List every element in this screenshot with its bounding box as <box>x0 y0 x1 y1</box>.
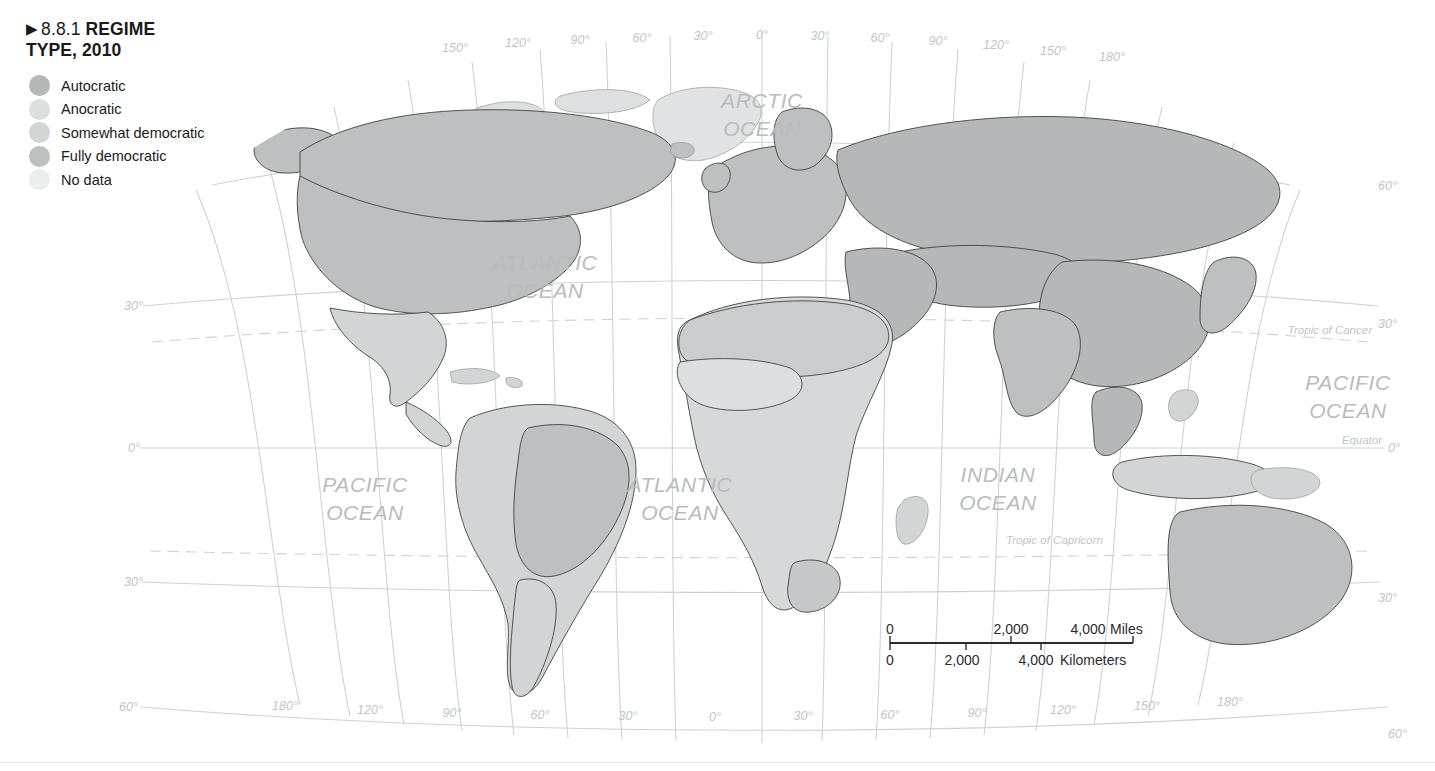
lon-label-bottom-1: 120° <box>357 703 383 717</box>
country-russia <box>837 116 1280 263</box>
legend-swatch-somewhat-democratic <box>29 122 50 143</box>
island-new-guinea <box>1251 468 1320 499</box>
legend-swatch-no-data <box>29 169 50 190</box>
legend-item-fully-democratic: Fully democratic <box>29 145 286 169</box>
figure-number: 8.8.1 <box>41 19 80 39</box>
country-iceland <box>670 142 694 158</box>
lat-label-right-0: 60° <box>1378 179 1397 193</box>
lon-label-bottom-8: 90° <box>968 706 987 720</box>
legend-swatch-fully-democratic <box>29 146 50 167</box>
lon-label-bottom-3: 60° <box>531 708 550 722</box>
lat-label-right-3: 30° <box>1378 591 1397 605</box>
island-madagascar <box>896 496 928 544</box>
country-indonesia <box>1113 455 1272 498</box>
region-central-america <box>406 402 451 446</box>
ocean-label-atlantic-north-line1: ATLANTIC <box>491 251 598 274</box>
lon-label-bottom-11: 180° <box>1217 695 1243 709</box>
lat-label-right-1: 30° <box>1378 317 1397 331</box>
country-south-africa <box>788 560 840 612</box>
label-tropic-of-capricorn: Tropic of Capricorn <box>1006 534 1103 546</box>
ocean-label-pacific-west-line2: OCEAN <box>326 501 404 524</box>
ocean-label-arctic-line2: OCEAN <box>723 117 801 140</box>
ocean-label-pacific-east-line1: PACIFIC <box>1305 371 1391 394</box>
lon-label-top-7: 60° <box>871 31 890 45</box>
scale-km-unit: Kilometers <box>1060 652 1126 668</box>
figure-page: ARCTIC OCEAN ATLANTIC OCEAN ATLANTIC OCE… <box>0 0 1435 771</box>
ocean-label-indian-line2: OCEAN <box>959 491 1037 514</box>
scale-km-tick-1: 2,000 <box>944 652 979 668</box>
ocean-label-arctic-line1: ARCTIC <box>719 89 803 112</box>
label-equator: Equator <box>1342 434 1383 446</box>
label-tropic-of-cancer: Tropic of Cancer <box>1288 324 1373 336</box>
region-southeast-asia <box>1092 387 1142 455</box>
lon-label-bottom-2: 90° <box>443 706 462 720</box>
lon-label-top-2: 90° <box>571 33 590 47</box>
ocean-label-atlantic-south-line2: OCEAN <box>641 501 719 524</box>
lon-label-top-1: 120° <box>505 36 531 50</box>
lat-label-left-2: 30° <box>124 575 143 589</box>
country-argentina <box>510 579 556 697</box>
page-bottom-rule <box>0 762 1435 763</box>
figure-title-line2: TYPE, 2010 <box>26 40 121 60</box>
scale-miles-tick-2: 4,000 <box>1070 621 1105 637</box>
legend-item-anocratic: Anocratic <box>29 98 286 122</box>
lon-label-top-9: 120° <box>983 38 1009 52</box>
lon-label-bottom-5: 0° <box>709 710 721 724</box>
scale-miles-unit: Miles <box>1110 621 1143 637</box>
lon-label-top-11: 180° <box>1099 50 1125 64</box>
lon-label-bottom-6: 30° <box>794 709 813 723</box>
lat-label-left-3: 60° <box>119 700 138 714</box>
graticule-labels-top: 150° 120° 90° 60° 30° 0° 30° 60° 90° 120… <box>442 28 1125 64</box>
legend-label-anocratic: Anocratic <box>61 101 121 117</box>
figure-title: ▶8.8.1 REGIME TYPE, 2010 <box>26 18 286 61</box>
country-mexico <box>330 308 446 406</box>
country-australia <box>1168 505 1352 644</box>
scale-km-tick-0: 0 <box>886 652 894 668</box>
lon-label-bottom-9: 120° <box>1050 703 1076 717</box>
lon-label-top-8: 90° <box>929 34 948 48</box>
legend-label-fully-democratic: Fully democratic <box>61 148 167 164</box>
lon-label-top-5: 0° <box>756 28 768 42</box>
country-new-zealand <box>1356 646 1398 707</box>
graticule-labels-left: 30° 0° 30° 60° <box>119 299 143 714</box>
legend-swatch-autocratic <box>29 75 50 96</box>
scale-bar: 0 2,000 4,000 Miles 0 2,000 4,000 Kilome… <box>886 621 1143 668</box>
legend-label-no-data: No data <box>61 172 112 188</box>
lon-label-bottom-7: 60° <box>881 708 900 722</box>
region-korea-japan <box>1200 257 1256 333</box>
lon-label-top-3: 60° <box>633 31 652 45</box>
legend-swatch-anocratic <box>29 99 50 120</box>
country-philippines <box>1169 390 1199 422</box>
lat-label-right-2: 0° <box>1388 441 1400 455</box>
lon-label-top-10: 150° <box>1040 44 1066 58</box>
graticule-labels-bottom: 180° 120° 90° 60° 30° 0° 30° 60° 90° 120… <box>272 695 1243 724</box>
lat-label-right-4: 60° <box>1388 727 1407 741</box>
landmasses <box>254 87 1398 706</box>
region-caribbean <box>450 369 522 388</box>
legend-item-no-data: No data <box>29 168 286 192</box>
lon-label-top-6: 30° <box>811 29 830 43</box>
ocean-label-atlantic-south-line1: ATLANTIC <box>626 473 733 496</box>
scale-km-tick-2: 4,000 <box>1018 652 1053 668</box>
country-india <box>994 308 1081 416</box>
legend-label-somewhat-democratic: Somewhat democratic <box>61 125 204 141</box>
legend-item-autocratic: Autocratic <box>29 74 286 98</box>
legend-items: Autocratic Anocratic Somewhat democratic… <box>29 74 286 192</box>
scale-miles-tick-1: 2,000 <box>993 621 1028 637</box>
lon-label-top-4: 30° <box>694 29 713 43</box>
scale-miles-tick-0: 0 <box>886 621 894 637</box>
legend-item-somewhat-democratic: Somewhat democratic <box>29 121 286 145</box>
legend-label-autocratic: Autocratic <box>61 78 125 94</box>
ocean-label-pacific-east-line2: OCEAN <box>1309 399 1387 422</box>
region-europe <box>709 146 847 263</box>
lat-label-left-0: 30° <box>124 299 143 313</box>
ocean-label-pacific-west-line1: PACIFIC <box>322 473 408 496</box>
map-legend: ▶8.8.1 REGIME TYPE, 2010 Autocratic Anoc… <box>26 18 286 192</box>
triangle-marker-icon: ▶ <box>26 20 38 37</box>
figure-title-line1: REGIME <box>86 19 156 39</box>
lat-label-left-1: 0° <box>128 441 140 455</box>
ocean-label-atlantic-north-line2: OCEAN <box>506 279 584 302</box>
lon-label-top-0: 150° <box>442 41 468 55</box>
lon-label-bottom-10: 150° <box>1134 699 1160 713</box>
graticule-labels-right: 60° 30° 0° 30° 60° <box>1378 179 1407 741</box>
